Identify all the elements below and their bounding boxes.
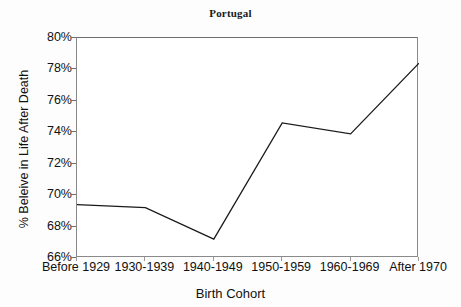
- y-tick-label: 70%: [32, 187, 72, 201]
- y-tick-mark: [71, 37, 76, 38]
- x-axis-title: Birth Cohort: [0, 286, 461, 301]
- y-tick-mark: [71, 226, 76, 227]
- plot-area: [76, 37, 418, 257]
- x-tick-mark: [213, 257, 214, 261]
- x-tick-label: 1960-1969: [320, 260, 380, 274]
- x-tick-mark: [350, 257, 351, 261]
- y-tick-mark: [71, 257, 76, 258]
- y-tick-label: 78%: [32, 61, 72, 75]
- x-tick-mark: [418, 257, 419, 261]
- y-tick-mark: [71, 68, 76, 69]
- x-tick-mark: [281, 257, 282, 261]
- y-tick-mark: [71, 100, 76, 101]
- y-tick-label: 80%: [32, 30, 72, 44]
- x-tick-label: After 1970: [389, 260, 447, 274]
- x-tick-label: 1950-1959: [251, 260, 311, 274]
- data-line-portugal: [77, 63, 419, 239]
- x-tick-label: Before 1929: [42, 260, 110, 274]
- x-tick-label: 1930-1939: [115, 260, 175, 274]
- line-series-svg: [77, 38, 419, 258]
- chart-figure: Portugal % Beleive in Life After Death 6…: [0, 0, 461, 307]
- y-tick-mark: [71, 131, 76, 132]
- y-tick-label: 74%: [32, 124, 72, 138]
- x-tick-mark: [76, 257, 77, 261]
- y-tick-mark: [71, 163, 76, 164]
- y-tick-label: 72%: [32, 156, 72, 170]
- y-tick-label: 68%: [32, 219, 72, 233]
- x-tick-label: 1940-1949: [183, 260, 243, 274]
- y-tick-label: 76%: [32, 93, 72, 107]
- x-tick-mark: [144, 257, 145, 261]
- y-tick-mark: [71, 194, 76, 195]
